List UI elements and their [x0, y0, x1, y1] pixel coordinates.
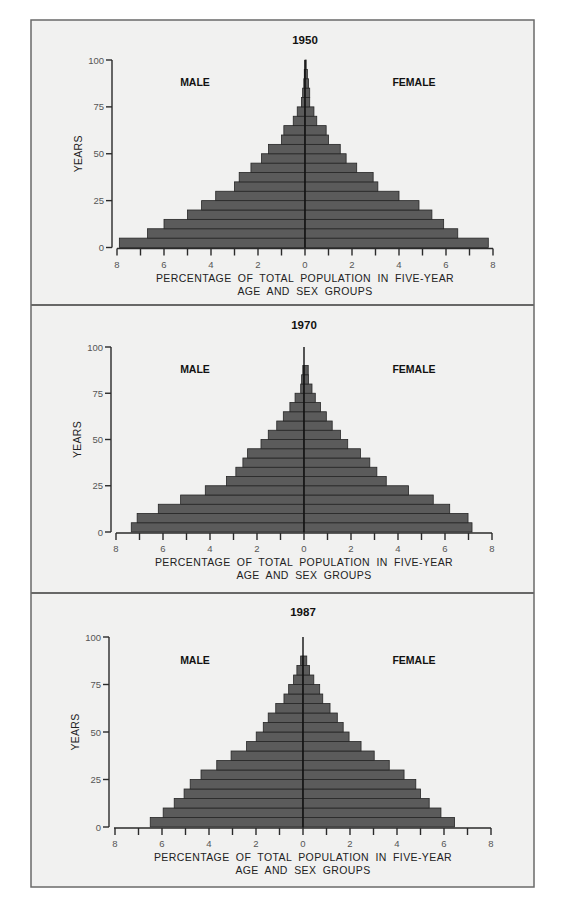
x-tick-label: 6: [159, 838, 164, 849]
male-bar-30-34: [236, 467, 304, 476]
female-bar-75-79: [305, 98, 310, 107]
female-bar-75-79: [304, 384, 312, 393]
female-bar-45-49: [303, 732, 349, 742]
female-bar-80-84: [303, 666, 310, 676]
male-bar-20-24: [205, 486, 304, 495]
male-bar-0-4: [131, 523, 304, 532]
female-bar-65-69: [304, 403, 320, 412]
female-bar-5-9: [305, 229, 458, 238]
male-bar-10-14: [158, 504, 304, 513]
chart-title: 1987: [290, 606, 316, 618]
male-bar-0-4: [119, 238, 305, 247]
female-bar-15-19: [303, 789, 421, 799]
female-bar-60-64: [304, 412, 326, 421]
x-tick-label: 6: [160, 543, 165, 554]
y-tick-label: 50: [90, 727, 101, 738]
male-bar-45-49: [262, 154, 305, 163]
x-axis-label-line1: PERCENTAGE OF TOTAL POPULATION IN FIVE-Y…: [154, 851, 452, 863]
female-bar-25-29: [304, 477, 386, 486]
male-bar-75-79: [294, 675, 303, 685]
female-bar-55-59: [305, 135, 329, 144]
male-bar-0-4: [150, 818, 303, 828]
male-bar-60-64: [284, 126, 305, 135]
female-bar-55-59: [304, 421, 332, 430]
x-axis-label-line1: PERCENTAGE OF TOTAL POPULATION IN FIVE-Y…: [155, 556, 453, 568]
female-bar-35-39: [304, 458, 370, 467]
male-bar-70-74: [295, 393, 304, 402]
female-bar-40-44: [305, 163, 357, 172]
x-tick-label: 8: [113, 543, 118, 554]
chart-title: 1970: [291, 319, 317, 331]
male-bar-5-9: [148, 229, 305, 238]
male-bar-15-19: [181, 495, 304, 504]
y-tick-label: 0: [99, 242, 104, 253]
x-tick-label: 2: [255, 259, 260, 270]
male-label: MALE: [180, 654, 210, 666]
male-bar-40-44: [248, 449, 304, 458]
x-tick-label: 8: [488, 838, 493, 849]
x-tick-label: 2: [254, 543, 259, 554]
male-bar-55-59: [277, 421, 304, 430]
chart-title: 1950: [292, 34, 318, 46]
female-bar-30-34: [305, 182, 378, 191]
male-bar-30-34: [235, 182, 306, 191]
x-tick-label: 4: [395, 543, 400, 554]
male-bar-60-64: [283, 412, 304, 421]
x-tick-label: 6: [442, 543, 447, 554]
female-bar-20-24: [304, 486, 409, 495]
male-bar-40-44: [251, 163, 305, 172]
female-bar-70-74: [305, 107, 314, 116]
female-label: FEMALE: [392, 76, 435, 88]
female-bar-15-19: [305, 210, 432, 219]
y-tick-label: 0: [98, 527, 103, 538]
x-tick-label: 6: [441, 838, 446, 849]
female-bar-5-9: [304, 514, 468, 523]
female-bar-35-39: [303, 751, 374, 761]
x-tick-label: 2: [349, 259, 354, 270]
male-bar-40-44: [247, 742, 303, 752]
y-axis-label: YEARS: [72, 135, 84, 172]
x-axis-label-line1: PERCENTAGE OF TOTAL POPULATION IN FIVE-Y…: [156, 272, 454, 284]
male-bar-50-54: [269, 144, 305, 153]
female-bar-10-14: [303, 799, 429, 809]
male-bar-10-14: [164, 219, 305, 228]
male-bar-60-64: [276, 704, 303, 714]
male-bar-45-49: [256, 732, 303, 742]
y-axis-label: YEARS: [71, 421, 83, 458]
y-tick-label: 100: [87, 342, 103, 353]
male-bar-65-69: [293, 116, 305, 125]
male-label: MALE: [180, 76, 210, 88]
x-tick-label: 4: [207, 543, 212, 554]
male-bar-25-29: [226, 477, 304, 486]
male-bar-5-9: [163, 808, 303, 818]
female-bar-50-54: [304, 430, 340, 439]
female-bar-45-49: [305, 154, 346, 163]
female-bar-65-69: [305, 116, 317, 125]
x-tick-label: 2: [348, 543, 353, 554]
female-bar-20-24: [303, 780, 416, 790]
female-bar-65-69: [303, 694, 323, 704]
male-bar-50-54: [263, 723, 303, 733]
x-tick-label: 8: [490, 259, 495, 270]
male-bar-50-54: [268, 430, 304, 439]
female-bar-30-34: [303, 761, 389, 771]
male-bar-5-9: [137, 514, 304, 523]
male-bar-70-74: [297, 107, 305, 116]
x-tick-label: 8: [112, 838, 117, 849]
female-bar-30-34: [304, 467, 377, 476]
y-tick-label: 50: [92, 434, 103, 445]
male-bar-25-29: [216, 191, 305, 200]
male-bar-15-19: [184, 789, 303, 799]
male-bar-20-24: [190, 780, 303, 790]
y-axis-label: YEARS: [69, 713, 81, 750]
female-bar-10-14: [305, 219, 444, 228]
y-tick-label: 0: [96, 822, 101, 833]
y-tick-label: 25: [92, 480, 103, 491]
female-bar-0-4: [305, 238, 488, 247]
x-axis-label-line2: AGE AND SEX GROUPS: [237, 285, 372, 297]
male-bar-20-24: [202, 201, 305, 210]
x-tick-label: 4: [396, 259, 401, 270]
x-tick-label: 6: [161, 259, 166, 270]
y-tick-label: 25: [90, 774, 101, 785]
female-bar-10-14: [304, 504, 450, 513]
